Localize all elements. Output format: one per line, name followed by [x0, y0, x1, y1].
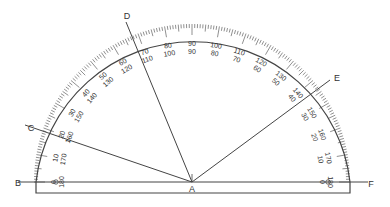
scale-tick: [52, 108, 56, 110]
scale-tick: [306, 76, 309, 79]
scale-tick: [303, 72, 306, 75]
scale-tick: [51, 110, 55, 112]
scale-tick: [293, 63, 296, 66]
scale-tick: [90, 61, 97, 69]
scale-tick: [320, 94, 323, 96]
scale-tick: [50, 113, 54, 115]
scale-tick: [159, 27, 160, 31]
scale-tick: [229, 29, 230, 33]
scale-tick: [113, 45, 119, 55]
scale-tick: [128, 38, 130, 42]
ray-AC: [25, 125, 192, 182]
scale-tick: [227, 28, 228, 32]
scale-tick: [338, 131, 342, 132]
scale-tick: [323, 98, 326, 100]
scale-tick: [64, 89, 67, 91]
point-label-b: B: [15, 179, 21, 188]
scale-tick: [335, 123, 339, 124]
scale-tick: [295, 65, 298, 68]
scale-tick: [48, 118, 52, 120]
scale-tick: [130, 37, 132, 41]
scale-tick: [260, 40, 262, 44]
scale-tick: [78, 72, 81, 75]
scale-tick: [40, 138, 44, 139]
scale-tick: [299, 68, 302, 71]
scale-tick: [218, 26, 220, 37]
scale-tick: [135, 34, 136, 38]
scale-tick: [213, 26, 214, 30]
scale-tick: [156, 28, 157, 32]
scale-tick: [224, 27, 225, 31]
outer-scale-number: 90: [188, 40, 196, 47]
scale-tick: [256, 39, 259, 45]
scale-tick: [73, 78, 76, 81]
scale-tick: [106, 49, 108, 52]
scale-tick: [321, 96, 324, 98]
scale-tick: [42, 133, 46, 134]
scale-tick: [334, 120, 338, 122]
inner-scale-number: 90: [188, 48, 196, 55]
scale-tick: [255, 38, 257, 42]
scale-tick: [336, 125, 340, 126]
scale-tick: [123, 40, 125, 44]
scale-tick: [37, 149, 41, 150]
scale-tick: [165, 26, 167, 37]
scale-tick: [69, 83, 72, 86]
scale-tick: [337, 155, 348, 157]
scale-tick: [329, 115, 335, 118]
scale-tick: [63, 91, 69, 95]
scale-tick: [57, 101, 60, 103]
scale-tick: [283, 54, 285, 57]
scale-tick: [167, 26, 168, 30]
outer-scale-number: 170: [324, 152, 333, 165]
scale-tick: [151, 29, 153, 36]
scale-tick: [289, 59, 292, 62]
scale-tick: [148, 30, 149, 34]
scale-tick: [39, 141, 46, 143]
scale-tick: [262, 41, 264, 45]
scale-tick: [41, 136, 45, 137]
point-label-c: C: [28, 124, 35, 133]
scale-tick: [104, 51, 106, 54]
scale-tick: [297, 66, 300, 69]
scale-tick: [55, 103, 65, 109]
ray-AE: [192, 80, 330, 182]
scale-tick: [111, 47, 113, 50]
scale-tick: [316, 91, 322, 95]
scale-tick: [247, 34, 248, 38]
scale-tick: [274, 48, 276, 51]
protractor-diagram: 0180101702016030150401405013060120701108…: [0, 0, 390, 207]
scale-tick: [86, 65, 89, 68]
scale-tick: [37, 152, 41, 153]
scale-tick: [324, 101, 327, 103]
scale-tick: [264, 42, 266, 46]
point-label-a: A: [189, 185, 195, 194]
scale-tick: [88, 63, 91, 66]
scale-tick: [59, 96, 62, 98]
point-label-d: D: [124, 12, 131, 21]
scale-tick: [345, 160, 349, 161]
scale-tick: [58, 98, 61, 100]
scale-tick: [287, 57, 289, 60]
scale-tick: [67, 85, 70, 87]
scale-tick: [285, 56, 287, 59]
scale-tick: [328, 108, 332, 110]
scale-tick: [71, 80, 79, 87]
scale-tick: [231, 29, 233, 36]
scale-tick: [286, 61, 293, 69]
scale-tick: [279, 53, 283, 59]
scale-tick: [46, 123, 50, 124]
scale-tick: [267, 44, 269, 47]
scale-tick: [312, 83, 315, 86]
scale-tick: [330, 113, 334, 115]
scale-tick: [237, 31, 238, 35]
scale-tick: [162, 27, 163, 31]
scale-tick: [44, 125, 48, 126]
scale-tick: [266, 45, 272, 55]
scale-tick: [54, 105, 57, 107]
outer-scale-number: 10: [51, 153, 59, 162]
scale-tick: [118, 42, 120, 46]
scale-tick: [125, 39, 128, 45]
inner-scale-number: 10: [317, 155, 325, 164]
scale-tick: [305, 74, 308, 77]
